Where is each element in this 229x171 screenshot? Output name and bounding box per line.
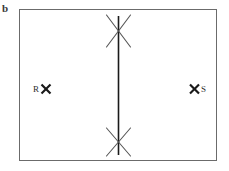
figure-panel: b R S (0, 0, 229, 171)
left-point-x-icon (42, 85, 51, 94)
right-point-label-s: S (201, 84, 206, 94)
left-point-label-r: R (33, 84, 39, 94)
right-point-x-icon (190, 85, 199, 94)
